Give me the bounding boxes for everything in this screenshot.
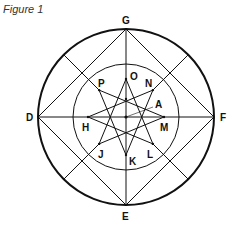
diagonal-to-l: [153, 144, 188, 179]
label-d: D: [26, 112, 33, 123]
diagonal-to-n: [153, 55, 188, 90]
point-j-dot: [98, 143, 100, 145]
point-l-dot: [152, 143, 154, 145]
label-k: K: [129, 156, 137, 167]
diagonal-to-j: [64, 144, 99, 179]
center-point: [124, 115, 127, 118]
label-j: J: [98, 149, 104, 160]
leader-line-a: [126, 107, 153, 117]
point-h-dot: [87, 116, 89, 118]
diagonal-to-p: [64, 55, 99, 90]
point-n-dot: [152, 89, 154, 91]
label-m: M: [160, 122, 168, 133]
point-k-dot: [125, 154, 127, 156]
label-p: P: [98, 78, 105, 89]
label-a: A: [155, 99, 162, 110]
label-h: H: [82, 122, 89, 133]
label-n: N: [145, 78, 152, 89]
point-o-dot: [125, 78, 127, 80]
label-o: O: [130, 71, 138, 82]
label-l: L: [147, 149, 153, 160]
label-e: E: [122, 211, 129, 222]
point-p-dot: [98, 89, 100, 91]
point-dot: [125, 98, 127, 100]
label-g: G: [122, 15, 130, 26]
label-f: F: [220, 112, 226, 123]
point-m-dot: [163, 116, 165, 118]
geometric-diagram: G E D F O N P A H M J L K: [0, 0, 237, 229]
